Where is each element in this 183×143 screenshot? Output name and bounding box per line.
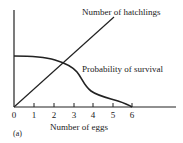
tick-label-4: 4	[91, 110, 96, 120]
x-axis-label: Number of eggs	[50, 122, 108, 132]
tick-label-3: 3	[72, 110, 77, 120]
tick-label-0: 0	[12, 110, 17, 120]
hatchlings-line	[14, 17, 114, 107]
tick-label-1: 1	[32, 110, 37, 120]
chart: 0 1 2 3 4 5 6 Number of hatchlings Proba…	[0, 0, 183, 143]
x-tick-labels: 0 1 2 3 4 5 6	[12, 110, 135, 120]
tick-label-6: 6	[130, 110, 135, 120]
panel-label: (a)	[13, 129, 22, 138]
tick-label-5: 5	[111, 110, 116, 120]
hatchlings-label: Number of hatchlings	[82, 7, 161, 17]
survival-label: Probability of survival	[82, 64, 163, 74]
tick-label-2: 2	[52, 110, 57, 120]
